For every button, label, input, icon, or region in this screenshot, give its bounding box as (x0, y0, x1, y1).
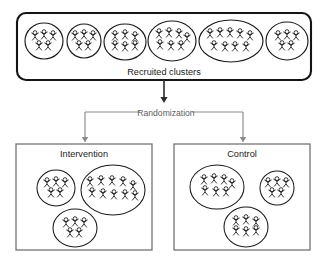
person-head (158, 40, 162, 44)
person-head (244, 42, 248, 46)
intervention-cluster-3-outline (53, 209, 97, 247)
cluster-5 (199, 20, 263, 62)
person-head (99, 176, 103, 180)
person-head (294, 31, 298, 35)
person-head (77, 41, 81, 45)
intervention-label: Intervention (60, 149, 108, 159)
person-head (157, 29, 161, 33)
person-head (77, 228, 81, 232)
person-head (280, 41, 284, 45)
person-head (82, 30, 86, 34)
person-head (222, 175, 226, 179)
person-head (270, 188, 274, 192)
intervention-cluster-1-outline (37, 170, 75, 206)
person-head (64, 218, 68, 222)
person-head (230, 179, 234, 183)
cluster-5-outline (199, 20, 263, 62)
cluster-1 (25, 23, 63, 59)
intervention-cluster-1 (37, 170, 75, 206)
person-head (224, 187, 228, 191)
cluster-6-outline (266, 22, 308, 60)
intervention-cluster-2 (81, 165, 145, 215)
randomization-group: Randomization (82, 80, 246, 143)
person-head (266, 178, 270, 182)
person-head (275, 177, 279, 181)
person-head (244, 215, 248, 219)
randomization-label: Randomization (137, 108, 195, 118)
person-head (167, 28, 171, 32)
cluster-4 (148, 21, 196, 61)
recruited-clusters-label: Recruited clusters (127, 67, 201, 77)
person-head (234, 226, 238, 230)
person-head (123, 30, 127, 34)
person-head (82, 218, 86, 222)
cluster-2 (67, 24, 101, 58)
person-head (223, 42, 227, 46)
person-head (101, 189, 105, 193)
person-head (123, 42, 127, 46)
cluster-2-outline (67, 24, 101, 58)
person-head (203, 186, 207, 190)
person-head (68, 228, 72, 232)
person-head (284, 178, 288, 182)
randomization-arrow-in-head (160, 97, 167, 103)
person-head (212, 174, 216, 178)
person-head (279, 188, 283, 192)
person-head (42, 30, 46, 34)
person-head (123, 190, 127, 194)
intervention-panel: Intervention (16, 144, 152, 250)
person-head (90, 188, 94, 192)
person-head (133, 191, 137, 195)
person-head (63, 178, 67, 182)
person-head (238, 29, 242, 33)
cluster-1-outline (25, 23, 63, 59)
person-head (33, 31, 37, 35)
person-head (73, 217, 77, 221)
person-head (113, 41, 117, 45)
person-head (131, 181, 135, 185)
person-head (202, 175, 206, 179)
person-head (244, 227, 248, 231)
person-head (228, 28, 232, 32)
person-head (133, 32, 137, 36)
person-head (234, 216, 238, 220)
person-head (91, 31, 95, 35)
person-head (185, 33, 189, 37)
control-panel: Control (174, 144, 310, 250)
person-head (276, 31, 280, 35)
person-head (233, 42, 237, 46)
person-head (254, 226, 258, 230)
person-head (51, 31, 55, 35)
person-head (133, 41, 137, 45)
person-head (289, 41, 293, 45)
person-head (285, 30, 289, 34)
control-cluster-2 (260, 171, 294, 205)
person-head (86, 41, 90, 45)
arrow-to-intervention-head (82, 137, 88, 143)
person-head (73, 31, 77, 35)
person-head (208, 29, 212, 33)
diagram-canvas: Recruited clustersRandomizationIntervent… (0, 0, 328, 262)
person-head (46, 41, 50, 45)
intervention-cluster-3 (53, 209, 97, 247)
person-head (112, 190, 116, 194)
person-head (54, 177, 58, 181)
person-head (248, 31, 252, 35)
control-cluster-1 (190, 165, 244, 209)
recruited-clusters-group: Recruited clusters (17, 13, 311, 80)
cluster-trial-diagram: Recruited clustersRandomizationIntervent… (0, 0, 328, 262)
person-head (45, 178, 49, 182)
control-label: Control (227, 149, 257, 159)
person-head (177, 29, 181, 33)
person-head (254, 217, 258, 221)
person-head (49, 188, 53, 192)
person-head (58, 188, 62, 192)
control-cluster-3 (224, 207, 268, 247)
person-head (179, 41, 183, 45)
control-cluster-2-outline (260, 171, 294, 205)
arrow-to-control-head (240, 137, 246, 143)
person-head (37, 41, 41, 45)
person-head (110, 176, 114, 180)
person-head (218, 28, 222, 32)
person-head (214, 187, 218, 191)
